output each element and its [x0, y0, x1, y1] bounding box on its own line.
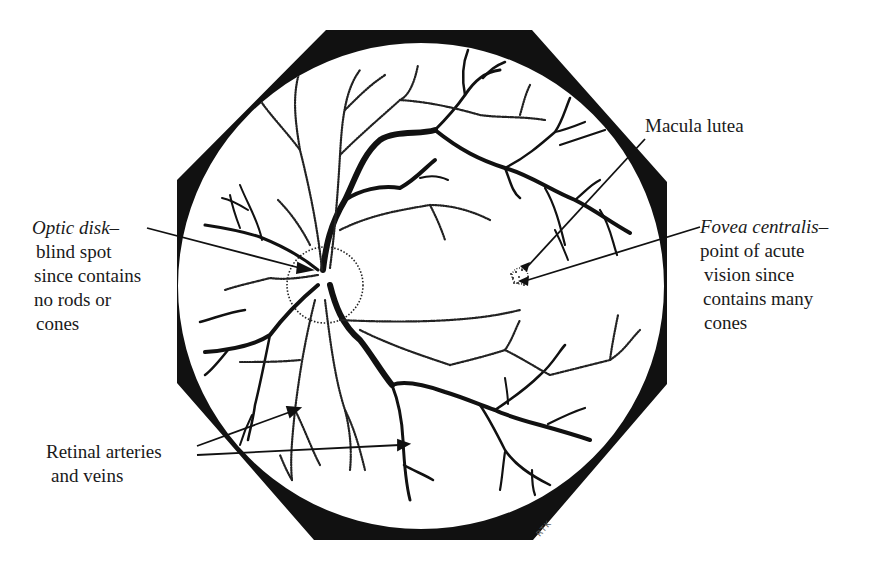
fovea-line-2: vision since: [700, 263, 828, 287]
optic-disk-line-1: blind spot: [32, 240, 141, 264]
optic-disk-line-2: since contains: [32, 264, 141, 288]
optic-disk-title: Optic disk–: [32, 216, 141, 240]
fovea-title: Fovea centralis–: [700, 215, 828, 239]
retinal-veins: [225, 65, 640, 480]
leader-lines: [147, 139, 700, 455]
vessels-line-1: Retinal arteries: [46, 440, 162, 464]
fovea-leader: [528, 227, 700, 280]
fovea-centralis-label: Fovea centralis– point of acute vision s…: [700, 215, 828, 335]
retina-diagram: Optic disk– blind spot since contains no…: [0, 0, 890, 562]
macula-fovea-spot: [510, 262, 530, 286]
octagon-frame: [177, 30, 667, 540]
optic-disk-leader: [147, 228, 300, 268]
macula-lutea-label: Macula lutea: [645, 114, 744, 138]
macula-leader: [528, 139, 645, 266]
fovea-line-4: cones: [700, 311, 828, 335]
retina-field: [200, 50, 640, 500]
vessels-line-2: and veins: [46, 464, 162, 488]
retinal-arteries: [200, 50, 630, 500]
vessel-leader-2: [197, 445, 400, 455]
optic-disk-line-3: no rods or: [32, 288, 141, 312]
optic-disk-label: Optic disk– blind spot since contains no…: [32, 216, 141, 336]
optic-disk-line-4: cones: [32, 312, 141, 336]
fovea-line-1: point of acute: [700, 239, 828, 263]
retinal-vessels-label: Retinal arteries and veins: [46, 440, 162, 488]
fovea-line-3: contains many: [700, 287, 828, 311]
